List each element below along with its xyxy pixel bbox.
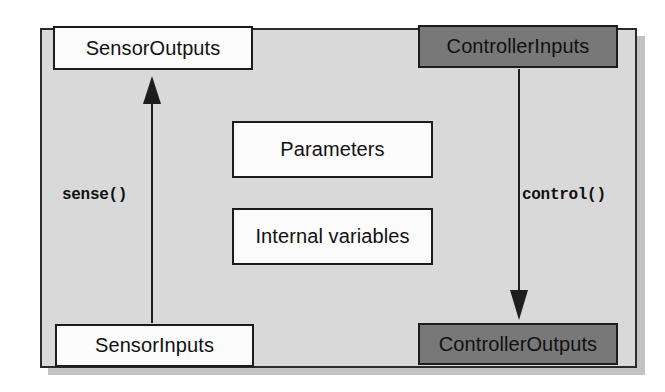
node-internal-variables-label: Internal variables: [255, 225, 409, 248]
node-parameters[interactable]: Parameters: [232, 121, 433, 178]
control-arrow-head-icon: [510, 290, 528, 320]
node-sensor-outputs[interactable]: SensorOutputs: [53, 26, 253, 70]
node-internal-variables[interactable]: Internal variables: [232, 208, 433, 265]
node-controller-outputs[interactable]: ControllerOutputs: [418, 323, 618, 365]
sense-arrow-line: [151, 100, 153, 323]
sense-arrow-label: sense(): [62, 186, 127, 204]
node-sensor-inputs-label: SensorInputs: [95, 334, 214, 357]
node-controller-outputs-label: ControllerOutputs: [439, 333, 597, 356]
control-arrow-line: [518, 69, 520, 292]
node-controller-inputs-label: ControllerInputs: [447, 35, 590, 58]
control-arrow-label: control(): [522, 186, 606, 204]
node-parameters-label: Parameters: [280, 138, 384, 161]
node-controller-inputs[interactable]: ControllerInputs: [418, 25, 618, 68]
node-sensor-outputs-label: SensorOutputs: [86, 37, 221, 60]
node-sensor-inputs[interactable]: SensorInputs: [55, 324, 254, 367]
sense-arrow-head-icon: [143, 76, 161, 104]
block-diagram: SensorOutputs ControllerInputs Parameter…: [0, 0, 665, 392]
